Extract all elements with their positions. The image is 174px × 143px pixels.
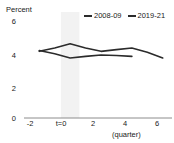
series-line-2019-21 [39, 51, 132, 59]
line-chart: Percent 6 4 2 0 -2 t=0 2 4 6 (quarter) 2… [0, 0, 174, 143]
event-shaded-band [61, 12, 80, 118]
plot-area [0, 0, 174, 143]
series-line-2008-09 [39, 44, 162, 58]
